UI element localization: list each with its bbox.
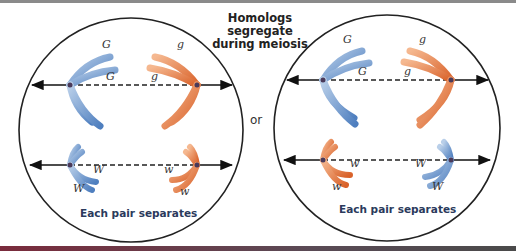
allele-label: w	[180, 185, 189, 198]
chromosome-blue-upper	[321, 51, 370, 124]
diagram-title: Homologs segregate during meiosis	[200, 12, 320, 51]
allele-label: g	[151, 70, 158, 83]
chromosome-orange-lower	[172, 147, 200, 190]
chromosome-blue-upper	[68, 57, 116, 126]
allele-label: W	[93, 163, 104, 176]
title-line-2: during meiosis	[200, 38, 320, 51]
bottom-border	[0, 246, 516, 251]
allele-label: w	[164, 163, 173, 176]
allele-label: w	[350, 157, 359, 170]
chromosome-orange-lower	[321, 142, 351, 185]
chromosome-orange-upper	[150, 57, 200, 126]
allele-label: G	[106, 70, 115, 83]
cell-caption: Each pair separates	[339, 203, 456, 215]
allele-label: g	[404, 65, 411, 78]
chromosome-orange-upper	[404, 51, 454, 125]
allele-label: G	[343, 33, 352, 46]
or-connector: or	[250, 113, 262, 127]
allele-label: w	[332, 180, 341, 193]
title-line-1: Homologs segregate	[200, 12, 320, 38]
allele-label: W	[432, 180, 443, 193]
allele-label: G	[102, 38, 111, 51]
allele-label: G	[358, 65, 367, 78]
cell-caption: Each pair separates	[80, 207, 197, 219]
allele-label: g	[419, 33, 426, 46]
allele-label: W	[73, 182, 84, 195]
allele-label: g	[177, 38, 184, 51]
allele-label: W	[415, 157, 426, 170]
